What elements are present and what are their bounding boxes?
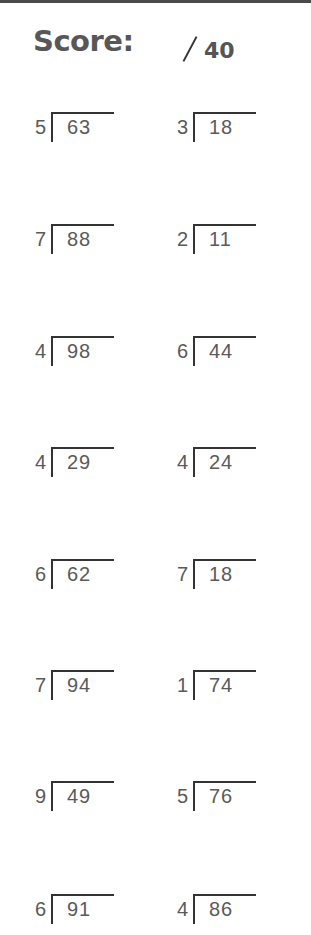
division-bracket-vertical bbox=[193, 447, 195, 477]
dividend: 76 bbox=[209, 784, 233, 808]
dividend: 91 bbox=[67, 897, 91, 921]
division-problem: 563 bbox=[35, 112, 135, 148]
dividend: 86 bbox=[209, 897, 233, 921]
division-bracket-vertical bbox=[193, 112, 195, 142]
division-bracket-vinculum bbox=[51, 670, 114, 672]
top-border-line bbox=[0, 0, 311, 3]
score-total: 40 bbox=[204, 38, 235, 63]
division-problem: 174 bbox=[177, 670, 277, 706]
division-bracket-vinculum bbox=[51, 894, 114, 896]
divisor: 5 bbox=[35, 115, 46, 139]
divisor: 6 bbox=[35, 562, 46, 586]
division-problem: 318 bbox=[177, 112, 277, 148]
division-problem: 429 bbox=[35, 447, 135, 483]
division-bracket-vinculum bbox=[51, 559, 114, 561]
divisor: 4 bbox=[177, 450, 188, 474]
dividend: 98 bbox=[67, 339, 91, 363]
division-bracket-vertical bbox=[193, 224, 195, 254]
divisor: 6 bbox=[177, 339, 188, 363]
score-slash bbox=[183, 36, 198, 62]
division-bracket-vinculum bbox=[193, 894, 256, 896]
division-bracket-vertical bbox=[51, 447, 53, 477]
dividend: 62 bbox=[67, 562, 91, 586]
dividend: 94 bbox=[67, 673, 91, 697]
dividend: 11 bbox=[209, 227, 232, 251]
division-bracket-vinculum bbox=[51, 336, 114, 338]
division-problem: 576 bbox=[177, 781, 277, 817]
divisor: 7 bbox=[35, 673, 46, 697]
dividend: 24 bbox=[209, 450, 233, 474]
division-bracket-vertical bbox=[51, 894, 53, 924]
divisor: 7 bbox=[35, 227, 46, 251]
division-problem: 211 bbox=[177, 224, 277, 260]
division-problem: 718 bbox=[177, 559, 277, 595]
division-bracket-vinculum bbox=[51, 447, 114, 449]
divisor: 9 bbox=[35, 784, 46, 808]
dividend: 44 bbox=[209, 339, 233, 363]
dividend: 29 bbox=[67, 450, 91, 474]
division-bracket-vinculum bbox=[51, 781, 114, 783]
divisor: 3 bbox=[177, 115, 188, 139]
division-bracket-vertical bbox=[51, 224, 53, 254]
division-bracket-vinculum bbox=[193, 336, 256, 338]
division-problem: 424 bbox=[177, 447, 277, 483]
division-bracket-vertical bbox=[51, 336, 53, 366]
divisor: 4 bbox=[35, 450, 46, 474]
division-bracket-vinculum bbox=[193, 670, 256, 672]
divisor: 4 bbox=[177, 897, 188, 921]
division-bracket-vertical bbox=[51, 559, 53, 589]
dividend: 18 bbox=[209, 115, 233, 139]
divisor: 4 bbox=[35, 339, 46, 363]
division-problem: 949 bbox=[35, 781, 135, 817]
division-problem: 486 bbox=[177, 894, 277, 930]
division-problem: 644 bbox=[177, 336, 277, 372]
divisor: 5 bbox=[177, 784, 188, 808]
division-bracket-vertical bbox=[193, 781, 195, 811]
divisor: 1 bbox=[177, 673, 188, 697]
division-bracket-vertical bbox=[51, 781, 53, 811]
division-bracket-vertical bbox=[51, 670, 53, 700]
division-problem: 662 bbox=[35, 559, 135, 595]
division-bracket-vinculum bbox=[51, 224, 114, 226]
dividend: 63 bbox=[67, 115, 91, 139]
division-bracket-vertical bbox=[193, 336, 195, 366]
dividend: 49 bbox=[67, 784, 91, 808]
divisor: 6 bbox=[35, 897, 46, 921]
division-bracket-vertical bbox=[193, 894, 195, 924]
division-problem: 788 bbox=[35, 224, 135, 260]
divisor: 2 bbox=[177, 227, 188, 251]
score-label: Score: bbox=[33, 24, 134, 58]
division-problem: 794 bbox=[35, 670, 135, 706]
division-problem: 498 bbox=[35, 336, 135, 372]
dividend: 88 bbox=[67, 227, 91, 251]
division-bracket-vinculum bbox=[193, 781, 256, 783]
dividend: 18 bbox=[209, 562, 233, 586]
divisor: 7 bbox=[177, 562, 188, 586]
division-problem: 691 bbox=[35, 894, 135, 930]
division-bracket-vertical bbox=[193, 559, 195, 589]
dividend: 74 bbox=[209, 673, 233, 697]
division-bracket-vertical bbox=[51, 112, 53, 142]
division-bracket-vinculum bbox=[193, 112, 256, 114]
division-bracket-vertical bbox=[193, 670, 195, 700]
division-bracket-vinculum bbox=[193, 224, 256, 226]
division-bracket-vinculum bbox=[51, 112, 114, 114]
division-bracket-vinculum bbox=[193, 447, 256, 449]
division-bracket-vinculum bbox=[193, 559, 256, 561]
